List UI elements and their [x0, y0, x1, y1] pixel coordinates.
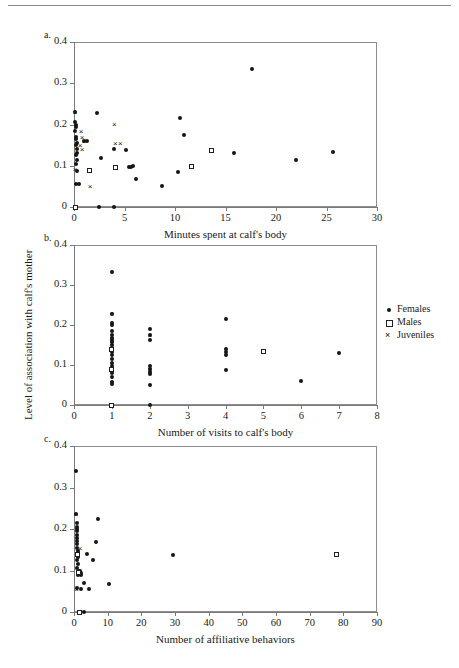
x-tick-a	[377, 207, 378, 211]
y-axis-line-a	[74, 42, 75, 207]
x-tick-c	[175, 612, 176, 616]
y-tick-label-a: 0.1	[34, 159, 67, 170]
x-tick-label-a: 20	[256, 212, 296, 223]
x-axis-line-c	[74, 612, 377, 613]
x-tick-label-b: 3	[168, 410, 208, 421]
x-tick-label-a: 0	[54, 212, 94, 223]
y-tick-label-c: 0.1	[34, 564, 67, 575]
y-tick-label-c: 0	[34, 605, 67, 616]
x-tick-b	[112, 405, 113, 409]
x-tick-b	[226, 405, 227, 409]
x-tick-label-b: 0	[54, 410, 94, 421]
y-tick-a	[70, 125, 74, 126]
y-tick-a	[70, 42, 74, 43]
x-tick-a	[175, 207, 176, 211]
x-tick-label-a: 10	[155, 212, 195, 223]
y-tick-label-b: 0.2	[34, 318, 67, 329]
x-tick-a	[74, 207, 75, 211]
y-tick-c	[70, 446, 74, 447]
y-tick-label-c: 0.3	[34, 481, 67, 492]
x-tick-c	[310, 612, 311, 616]
x-tick-label-c: 90	[357, 617, 397, 628]
y-tick-a	[70, 83, 74, 84]
x-tick-c	[343, 612, 344, 616]
y-tick-label-c: 0.4	[34, 439, 67, 450]
x-tick-label-b: 1	[92, 410, 132, 421]
y-tick-label-c: 0.2	[34, 522, 67, 533]
plot-frame-a	[74, 42, 377, 207]
panel-a: a.05101520253000.10.20.30.4Minutes spent…	[0, 30, 459, 235]
x-axis-title-c: Number of affiliative behaviors	[74, 633, 377, 645]
y-tick-label-b: 0	[34, 398, 67, 409]
x-tick-b	[263, 405, 264, 409]
y-tick-c	[70, 529, 74, 530]
y-tick-label-a: 0.3	[34, 76, 67, 87]
y-axis-line-c	[74, 446, 75, 612]
y-tick-c	[70, 612, 74, 613]
y-tick-b	[70, 365, 74, 366]
y-tick-b	[70, 405, 74, 406]
y-tick-c	[70, 571, 74, 572]
x-tick-c	[276, 612, 277, 616]
page-top-rule	[8, 5, 451, 6]
x-tick-label-a: 5	[105, 212, 145, 223]
y-tick-b	[70, 325, 74, 326]
y-tick-a	[70, 166, 74, 167]
x-tick-c	[209, 612, 210, 616]
circle-icon	[387, 308, 391, 312]
x-tick-label-b: 7	[319, 410, 359, 421]
plot-frame-b	[74, 245, 377, 405]
x-tick-a	[327, 207, 328, 211]
x-tick-b	[339, 405, 340, 409]
y-tick-label-a: 0.2	[34, 118, 67, 129]
x-tick-label-a: 30	[357, 212, 397, 223]
y-tick-label-a: 0.4	[34, 35, 67, 46]
y-tick-b	[70, 285, 74, 286]
cross-icon: ×	[385, 331, 390, 340]
x-tick-b	[301, 405, 302, 409]
x-tick-a	[276, 207, 277, 211]
y-axis-line-b	[74, 245, 75, 405]
x-tick-a	[226, 207, 227, 211]
x-tick-label-b: 8	[357, 410, 397, 421]
legend-label: Females	[397, 303, 430, 314]
x-tick-label-b: 6	[281, 410, 321, 421]
x-tick-b	[150, 405, 151, 409]
legend-label: Males	[397, 316, 421, 327]
y-tick-label-a: 0	[34, 200, 67, 211]
x-tick-label-b: 5	[243, 410, 283, 421]
x-tick-b	[188, 405, 189, 409]
y-tick-label-b: 0.4	[34, 238, 67, 249]
x-tick-a	[125, 207, 126, 211]
y-tick-c	[70, 488, 74, 489]
y-tick-label-b: 0.1	[34, 358, 67, 369]
x-tick-b	[377, 405, 378, 409]
y-tick-a	[70, 207, 74, 208]
x-tick-c	[242, 612, 243, 616]
panel-c: c.010203040506070809000.10.20.30.4Number…	[0, 432, 459, 668]
x-tick-c	[108, 612, 109, 616]
square-icon	[386, 320, 393, 327]
x-tick-label-a: 25	[307, 212, 347, 223]
y-tick-label-b: 0.3	[34, 278, 67, 289]
x-tick-c	[141, 612, 142, 616]
y-tick-b	[70, 245, 74, 246]
x-tick-c	[74, 612, 75, 616]
x-tick-label-b: 2	[130, 410, 170, 421]
x-tick-label-b: 4	[206, 410, 246, 421]
legend-label: Juveniles	[397, 329, 434, 340]
plot-frame-c	[74, 446, 377, 612]
x-tick-b	[74, 405, 75, 409]
x-tick-label-a: 15	[206, 212, 246, 223]
x-tick-c	[377, 612, 378, 616]
